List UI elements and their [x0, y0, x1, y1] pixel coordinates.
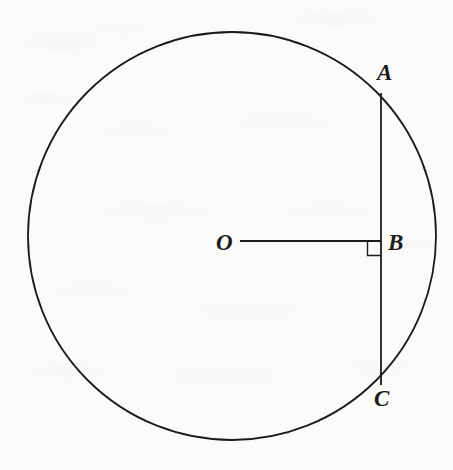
right-angle-mark-icon	[368, 242, 381, 256]
point-label-o: O	[216, 231, 233, 254]
point-label-c: C	[374, 387, 389, 410]
point-label-a: A	[377, 61, 392, 84]
point-label-b: B	[388, 231, 403, 254]
geometry-figure: A B C O	[0, 0, 453, 470]
